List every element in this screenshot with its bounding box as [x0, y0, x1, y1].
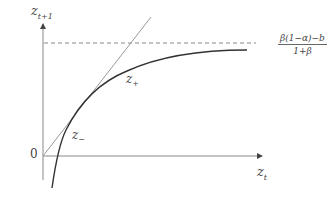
origin-label: 0 [30, 147, 38, 161]
x-axis-label: zt [257, 164, 267, 182]
fraction-denominator: 1+β [278, 45, 327, 56]
fraction-numerator: β(1−α)−b [278, 33, 327, 45]
asymptote-fraction-label: β(1−α)−b 1+β [278, 33, 327, 56]
phase-diagram-canvas [0, 0, 334, 197]
y-axis-label: zt+1 [31, 3, 53, 21]
fixed-point-z-plus-label: z+ [126, 72, 139, 88]
fixed-point-z-minus-label: z− [72, 128, 85, 144]
map-curve [52, 50, 247, 188]
